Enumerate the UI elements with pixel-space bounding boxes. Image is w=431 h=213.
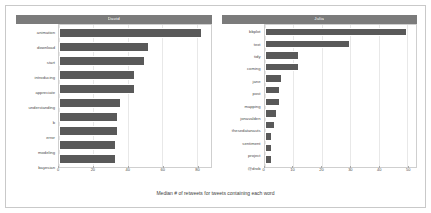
- y-tick-label: introducing: [16, 71, 58, 86]
- bar-row: [265, 142, 417, 154]
- bar-row: [265, 108, 417, 120]
- x-tick-label: 50: [406, 168, 410, 172]
- bar-row: [265, 38, 417, 50]
- bar: [59, 154, 116, 164]
- bar-row: [265, 50, 417, 62]
- y-tick-label: coming: [222, 63, 264, 75]
- y-tick-label: project: [222, 150, 264, 162]
- bar: [59, 140, 116, 150]
- bars-david: [59, 25, 211, 167]
- y-tick-label: b: [16, 115, 58, 130]
- x-tick-label: 0: [57, 168, 59, 172]
- bar: [265, 155, 272, 163]
- y-tick-label: @drob: [222, 163, 264, 175]
- y-tick-label: jonavalden: [222, 113, 264, 125]
- bar: [265, 121, 275, 129]
- y-tick-label: text: [222, 38, 264, 50]
- bars-julia: [265, 25, 417, 167]
- facet-panel-julia: Julia bbplot text tidy coming jane post …: [222, 15, 418, 177]
- figure-frame: David animation download start introduci…: [5, 5, 426, 208]
- x-tick-label: 40: [126, 168, 130, 172]
- y-tick-label: post: [222, 88, 264, 100]
- y-tick-label: sentiment: [222, 138, 264, 150]
- x-tick-label: 30: [348, 168, 352, 172]
- bar-row: [59, 124, 211, 138]
- y-tick-label: download: [16, 41, 58, 56]
- panel-column-julia: 01020304050: [264, 24, 418, 177]
- bar: [59, 126, 118, 136]
- x-tick-label: 0: [262, 168, 264, 172]
- y-tick-label: bayesian: [16, 160, 58, 175]
- y-axis-labels-julia: bbplot text tidy coming jane post mappin…: [222, 24, 264, 177]
- x-axis-title: Median # of retweets for tweets containi…: [6, 191, 425, 196]
- chart-screenshot: David animation download start introduci…: [0, 0, 431, 213]
- bar-row: [265, 61, 417, 73]
- bar-row: [59, 96, 211, 110]
- facet-body-julia: bbplot text tidy coming jane post mappin…: [222, 24, 418, 177]
- bar: [59, 70, 135, 80]
- y-tick-label: modeling: [16, 145, 58, 160]
- y-tick-label: mapping: [222, 101, 264, 113]
- bar-row: [59, 152, 211, 166]
- x-tick-label: 20: [91, 168, 95, 172]
- x-tick-label: 40: [377, 168, 381, 172]
- bar: [265, 98, 281, 106]
- bar: [265, 109, 278, 117]
- bar: [265, 132, 272, 140]
- bar-row: [265, 131, 417, 143]
- facet-strip-david: David: [16, 15, 212, 24]
- bar-row: [265, 73, 417, 85]
- bar-row: [265, 154, 417, 166]
- bar-row: [59, 54, 211, 68]
- panel-david: [58, 24, 212, 168]
- x-tick-label: 80: [195, 168, 199, 172]
- bar-row: [59, 40, 211, 54]
- y-tick-label: thesedatanauts: [222, 125, 264, 137]
- bar: [265, 40, 351, 48]
- facet-body-david: animation download start introducing app…: [16, 24, 212, 177]
- y-tick-label: bbplot: [222, 26, 264, 38]
- bar-row: [59, 68, 211, 82]
- bar: [59, 112, 118, 122]
- bar: [59, 84, 135, 94]
- y-tick-label: tidy: [222, 51, 264, 63]
- bar: [59, 28, 202, 38]
- x-axis-david: 020406080: [58, 168, 212, 177]
- y-tick-label: jane: [222, 76, 264, 88]
- bar-row: [59, 82, 211, 96]
- bar-row: [59, 110, 211, 124]
- y-tick-label: animation: [16, 26, 58, 41]
- bar: [265, 74, 282, 82]
- facet-strip-julia: Julia: [222, 15, 418, 24]
- panel-column-david: 020406080: [58, 24, 212, 177]
- bar: [265, 51, 299, 59]
- bar: [265, 86, 281, 94]
- bar: [59, 42, 149, 52]
- bar-row: [265, 27, 417, 39]
- x-axis-julia: 01020304050: [264, 168, 418, 177]
- bar: [59, 56, 145, 66]
- y-tick-label: error: [16, 130, 58, 145]
- bar: [265, 144, 272, 152]
- x-tick-label: 10: [290, 168, 294, 172]
- x-tick-label: 60: [160, 168, 164, 172]
- bar: [265, 63, 299, 71]
- bar-row: [265, 119, 417, 131]
- y-tick-label: start: [16, 56, 58, 71]
- bar-row: [265, 96, 417, 108]
- bar-row: [59, 27, 211, 41]
- bar: [59, 98, 121, 108]
- bar-row: [265, 84, 417, 96]
- y-tick-label: understanding: [16, 101, 58, 116]
- facet-strip-label-julia: Julia: [314, 17, 324, 21]
- y-axis-labels-david: animation download start introducing app…: [16, 24, 58, 177]
- facet-panel-david: David animation download start introduci…: [16, 15, 212, 177]
- plot-area: David animation download start introduci…: [6, 6, 425, 207]
- bar: [265, 28, 408, 36]
- x-tick-label: 20: [319, 168, 323, 172]
- facet-strip-label-david: David: [108, 17, 120, 21]
- panel-julia: [264, 24, 418, 168]
- y-tick-label: appreciate: [16, 86, 58, 101]
- facet-grid: David animation download start introduci…: [16, 15, 417, 177]
- bar-row: [59, 138, 211, 152]
